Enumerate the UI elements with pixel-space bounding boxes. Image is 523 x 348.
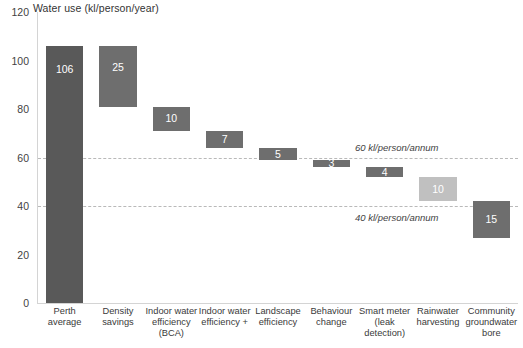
x-axis-label-line: Perth average bbox=[38, 306, 91, 328]
x-axis-label-line: harvesting bbox=[411, 317, 464, 328]
bar-indoor-water-efficiency[interactable]: 7 bbox=[206, 131, 243, 148]
bar-smart-meter-leak-detection[interactable]: 4 bbox=[366, 167, 403, 177]
y-axis-tick-0: 0 bbox=[0, 297, 29, 309]
plot-area: 106251075341015 60 kl/person/annum40 kl/… bbox=[38, 12, 518, 303]
bar-value-label: 25 bbox=[112, 62, 124, 73]
y-axis-tick-100: 100 bbox=[0, 55, 29, 67]
x-axis-label-line: Rainwater bbox=[411, 306, 464, 317]
x-axis-line bbox=[37, 303, 518, 304]
x-axis-label-line: Indoor water bbox=[198, 306, 251, 317]
x-axis-label-indoor-water-efficiency: Indoor waterefficiency + bbox=[198, 306, 251, 328]
reference-label-60: 60 kl/person/annum bbox=[355, 142, 438, 153]
bar-value-label: 4 bbox=[382, 167, 388, 178]
bar-value-label: 10 bbox=[432, 184, 444, 195]
x-axis-label-landscape-efficiency: Landscapeefficiency bbox=[251, 306, 304, 328]
bar-rainwater-harvesting[interactable]: 10 bbox=[419, 177, 456, 201]
x-axis-label-community-groundwater-bore: Communitygroundwaterbore bbox=[465, 306, 518, 340]
y-axis-tick-120: 120 bbox=[0, 6, 29, 18]
x-axis-label-line: efficiency bbox=[145, 317, 198, 328]
bar-indoor-water-efficiency-bca[interactable]: 10 bbox=[153, 107, 190, 131]
x-axis-label-line: bore bbox=[465, 328, 518, 339]
x-axis-label-line: Indoor water bbox=[145, 306, 198, 317]
y-axis-tick-80: 80 bbox=[0, 103, 29, 115]
waterfall-chart: Water use (kl/person/year) 1201008060402… bbox=[0, 0, 523, 348]
bar-value-label: 15 bbox=[485, 214, 497, 225]
bar-value-label: 106 bbox=[56, 64, 74, 75]
reference-line-40 bbox=[38, 206, 518, 207]
x-axis-label-indoor-water-efficiency-bca: Indoor waterefficiency(BCA) bbox=[145, 306, 198, 340]
x-axis-category-labels: Perth averageDensitysavingsIndoor watere… bbox=[38, 306, 518, 348]
y-axis-tick-60: 60 bbox=[0, 152, 29, 164]
x-axis-label-line: (BCA) bbox=[145, 328, 198, 339]
x-axis-label-line: Density bbox=[91, 306, 144, 317]
bar-value-label: 7 bbox=[222, 134, 228, 145]
x-axis-label-density-savings: Densitysavings bbox=[91, 306, 144, 328]
reference-label-40: 40 kl/person/annum bbox=[355, 212, 438, 223]
x-axis-label-line: efficiency + bbox=[198, 317, 251, 328]
bar-density-savings[interactable]: 25 bbox=[99, 46, 136, 107]
bar-value-label: 3 bbox=[328, 158, 334, 169]
x-axis-label-perth-average: Perth average bbox=[38, 306, 91, 328]
bar-community-groundwater-bore[interactable]: 15 bbox=[473, 201, 510, 237]
x-axis-label-line: Landscape bbox=[251, 306, 304, 317]
bar-behaviour-change[interactable]: 3 bbox=[313, 160, 350, 167]
y-axis-tick-20: 20 bbox=[0, 249, 29, 261]
x-axis-label-line: change bbox=[305, 317, 358, 328]
x-axis-label-line: savings bbox=[91, 317, 144, 328]
x-axis-label-behaviour-change: Behaviourchange bbox=[305, 306, 358, 328]
y-axis-tick-40: 40 bbox=[0, 200, 29, 212]
bar-perth-average[interactable]: 106 bbox=[46, 46, 83, 303]
x-axis-label-line: efficiency bbox=[251, 317, 304, 328]
x-axis-label-line: groundwater bbox=[465, 317, 518, 328]
x-axis-label-line: (leak bbox=[358, 317, 411, 328]
x-axis-label-line: Behaviour bbox=[305, 306, 358, 317]
x-axis-label-smart-meter-leak-detection: Smart meter(leakdetection) bbox=[358, 306, 411, 340]
x-axis-label-line: Smart meter bbox=[358, 306, 411, 317]
bar-value-label: 10 bbox=[165, 113, 177, 124]
x-axis-label-rainwater-harvesting: Rainwaterharvesting bbox=[411, 306, 464, 328]
bar-landscape-efficiency[interactable]: 5 bbox=[259, 148, 296, 160]
x-axis-label-line: detection) bbox=[358, 328, 411, 339]
x-axis-label-line: Community bbox=[465, 306, 518, 317]
bar-value-label: 5 bbox=[275, 149, 281, 160]
